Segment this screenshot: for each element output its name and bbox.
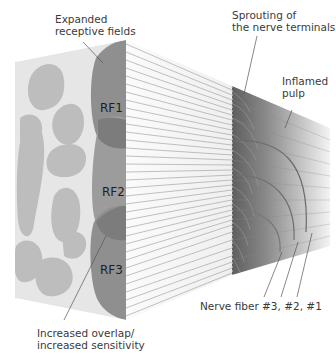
label-increased-overlap: Increased overlap/ increased sensitivity bbox=[37, 327, 145, 351]
label-nerve-fibers: Nerve fiber #3, #2, #1 bbox=[200, 300, 322, 312]
label-line: Expanded bbox=[55, 13, 136, 25]
label-line: Sprouting of bbox=[232, 9, 335, 21]
skin-surface-panel bbox=[14, 40, 126, 320]
nerve-fiber-bundle bbox=[126, 40, 232, 320]
label-line: Increased overlap/ bbox=[37, 327, 145, 339]
rf2-label: RF2 bbox=[102, 185, 125, 199]
label-line: Inflamed bbox=[282, 75, 328, 87]
rf1-label: RF1 bbox=[100, 101, 123, 115]
receptive-field-diagram: Expanded receptive fields Sprouting of t… bbox=[0, 0, 336, 356]
leader-sprouting bbox=[244, 36, 257, 94]
expanded-receptive-fields bbox=[90, 40, 126, 320]
label-line: increased sensitivity bbox=[37, 339, 145, 351]
label-line: receptive fields bbox=[55, 25, 136, 37]
label-line: pulp bbox=[282, 87, 328, 99]
label-line: the nerve terminals bbox=[232, 21, 335, 33]
label-expanded-receptive-fields: Expanded receptive fields bbox=[55, 13, 136, 37]
label-sprouting-terminals: Sprouting of the nerve terminals bbox=[232, 9, 335, 33]
label-inflamed-pulp: Inflamed pulp bbox=[282, 75, 328, 99]
rf3-label: RF3 bbox=[100, 263, 123, 277]
inflamed-pulp bbox=[232, 86, 330, 275]
